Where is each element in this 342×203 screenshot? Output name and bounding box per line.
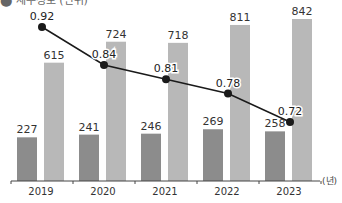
- bar-dark-2019: [17, 137, 37, 181]
- combo-chart: 20192020202120222023(년) 2276152417242467…: [0, 0, 342, 203]
- ratio-label: 0.72: [278, 105, 303, 118]
- ratio-point: [162, 75, 170, 83]
- bar-light-label: 615: [44, 49, 65, 62]
- ratio-point: [224, 90, 232, 98]
- bar-light-2019: [44, 63, 64, 181]
- x-tick-label: 2022: [214, 186, 239, 197]
- bar-light-label: 724: [106, 28, 127, 41]
- bar-light-label: 811: [230, 11, 251, 24]
- bar-dark-label: 246: [141, 120, 162, 133]
- ratio-point: [38, 23, 46, 31]
- bar-dark-2020: [79, 135, 99, 181]
- bar-dark-label: 241: [79, 121, 100, 134]
- bar-dark-label: 227: [17, 123, 38, 136]
- x-tick-label: 2021: [152, 186, 177, 197]
- bar-series: [17, 19, 312, 181]
- ratio-label: 0.78: [216, 77, 241, 90]
- bar-dark-2021: [141, 134, 161, 181]
- ratio-label: 0.92: [30, 10, 55, 23]
- bar-light-2020: [106, 42, 126, 181]
- ratio-label: 0.84: [92, 48, 117, 61]
- bar-light-2023: [292, 19, 312, 181]
- bar-dark-label: 258: [265, 117, 286, 130]
- ratio-point: [100, 61, 108, 69]
- x-tick-label: 2019: [28, 186, 53, 197]
- bar-dark-2022: [203, 129, 223, 181]
- x-tick-label: 2020: [90, 186, 115, 197]
- bar-light-label: 842: [292, 5, 313, 18]
- x-tick-label: 2023: [276, 186, 301, 197]
- ratio-label: 0.81: [154, 62, 179, 75]
- x-axis-unit-label: (년): [322, 176, 337, 186]
- bar-dark-label: 269: [203, 115, 224, 128]
- ratio-point: [286, 118, 294, 126]
- bar-dark-2023: [265, 131, 285, 181]
- bar-light-label: 718: [168, 29, 189, 42]
